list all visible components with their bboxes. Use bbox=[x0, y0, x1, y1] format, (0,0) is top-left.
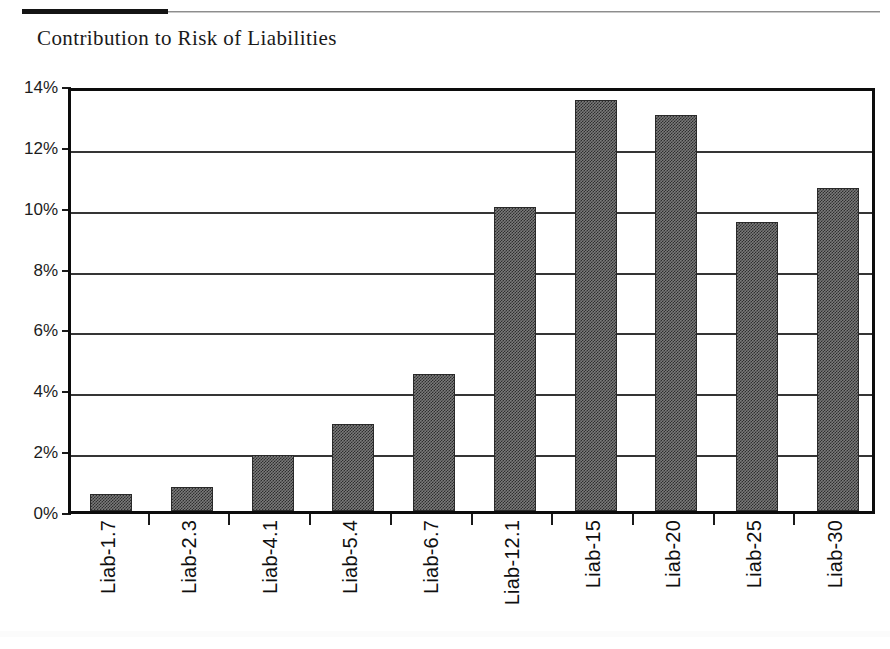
x-axis-tick-label: Liab-25 bbox=[743, 520, 766, 588]
bar bbox=[655, 115, 697, 511]
gridline bbox=[71, 151, 872, 153]
x-axis-tick-label: Liab-1.7 bbox=[97, 520, 120, 594]
x-axis-tick-label: Liab-30 bbox=[824, 520, 847, 588]
gridline bbox=[71, 212, 872, 214]
x-axis-tick-label: Liab-15 bbox=[582, 520, 605, 588]
bar bbox=[817, 188, 859, 511]
bar bbox=[252, 455, 294, 511]
x-axis-tick-label: Liab-20 bbox=[662, 520, 685, 588]
x-axis-tick-label: Liab-12.1 bbox=[501, 520, 524, 605]
chart-title: Contribution to Risk of Liabilities bbox=[37, 26, 337, 51]
x-axis-labels: Liab-1.7Liab-2.3Liab-4.1Liab-5.4Liab-6.7… bbox=[68, 520, 875, 649]
bar bbox=[332, 424, 374, 511]
plot-area bbox=[68, 88, 875, 514]
bar bbox=[494, 207, 536, 511]
bar bbox=[575, 100, 617, 511]
bar bbox=[171, 487, 213, 511]
x-axis-tick-label: Liab-4.1 bbox=[259, 520, 282, 594]
x-axis-tick-label: Liab-6.7 bbox=[420, 520, 443, 594]
bar bbox=[90, 494, 132, 511]
header-rule-thick bbox=[22, 9, 168, 14]
bar bbox=[413, 374, 455, 511]
plot-inner bbox=[71, 91, 872, 511]
x-axis-tick-label: Liab-2.3 bbox=[178, 520, 201, 594]
header-rule-thin bbox=[168, 11, 880, 12]
page-edge-artifact bbox=[0, 631, 890, 637]
bar bbox=[736, 222, 778, 511]
x-axis-tick-label: Liab-5.4 bbox=[339, 520, 362, 594]
